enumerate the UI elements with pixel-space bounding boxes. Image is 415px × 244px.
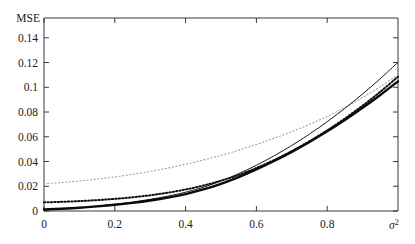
x-axis-title-exponent: 2 — [395, 218, 399, 227]
y-axis-title: MSE — [16, 12, 40, 24]
y-tick-label: 0 — [32, 205, 38, 217]
y-tick-label: 0.12 — [18, 57, 38, 69]
y-tick-label: 0.08 — [18, 106, 38, 118]
x-tick-label: 0.8 — [320, 218, 335, 230]
data-series-group — [44, 62, 398, 209]
series-line-thick-solid-black — [44, 81, 398, 209]
x-tick-label: 0 — [41, 218, 47, 230]
x-tick-marks — [44, 18, 327, 211]
x-tick-labels: 00.20.40.60.8 — [41, 218, 335, 230]
y-tick-label: 0.02 — [18, 180, 38, 192]
x-axis-title: σ2 — [389, 218, 399, 231]
x-tick-label: 0.4 — [178, 218, 193, 230]
chart-figure: 00.020.040.060.080.10.120.14 00.20.40.60… — [0, 0, 415, 244]
y-tick-label: 0.06 — [18, 131, 38, 143]
series-line-upper-dotted-light — [44, 75, 398, 184]
y-tick-label: 0.14 — [18, 32, 38, 44]
plot-frame — [44, 18, 398, 211]
plot-svg: 00.020.040.060.080.10.120.14 00.20.40.60… — [0, 0, 415, 244]
y-tick-label: 0.1 — [24, 81, 39, 93]
x-tick-label: 0.2 — [108, 218, 123, 230]
x-tick-label: 0.6 — [249, 218, 264, 230]
series-line-thin-solid-black — [44, 62, 398, 209]
y-tick-labels: 00.020.040.060.080.10.120.14 — [18, 32, 38, 217]
y-tick-label: 0.04 — [18, 156, 38, 168]
frame-border — [44, 18, 398, 211]
